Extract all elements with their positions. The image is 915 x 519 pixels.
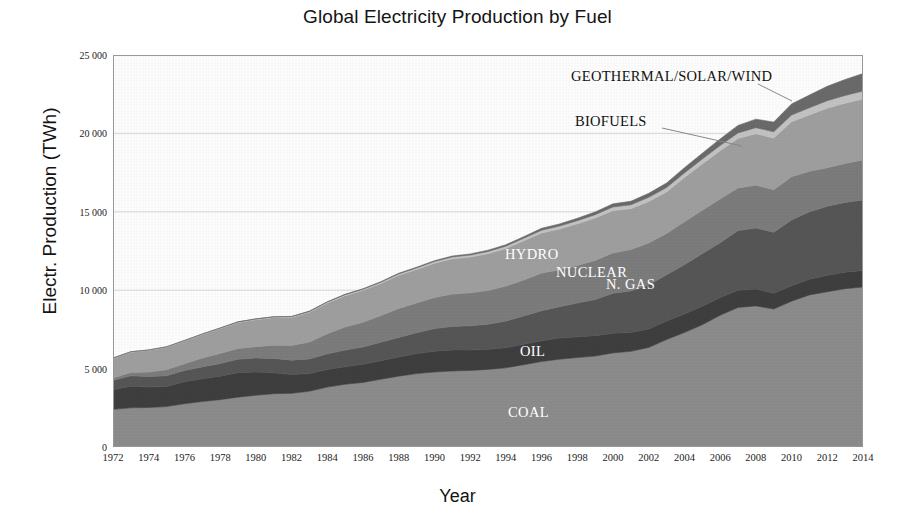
x-tick-label: 1976 — [174, 452, 195, 463]
x-tick-label: 2004 — [674, 452, 695, 463]
y-tick-label: 20 000 — [80, 128, 108, 139]
y-tick-label: 10 000 — [80, 285, 108, 296]
x-tick-label: 1994 — [495, 452, 516, 463]
area-series-group — [113, 74, 863, 448]
y-tick-label: 0 — [102, 442, 107, 453]
y-tick-label: 15 000 — [80, 206, 108, 217]
annotation-leader-line — [758, 84, 792, 101]
y-axis-label: Electr. Production (TWh) — [39, 11, 61, 411]
x-tick-label: 1992 — [460, 452, 481, 463]
x-tick-label: 2010 — [781, 452, 802, 463]
chart-figure: Global Electricity Production by Fuel El… — [0, 0, 915, 519]
x-tick-label: 1980 — [245, 452, 266, 463]
x-tick-label: 2000 — [603, 452, 624, 463]
x-tick-label: 2002 — [638, 452, 659, 463]
y-tick-label: 5 000 — [85, 363, 108, 374]
x-tick-label: 1990 — [424, 452, 445, 463]
stacked-area-svg — [113, 55, 863, 447]
x-tick-label: 1986 — [353, 452, 374, 463]
x-tick-label: 2014 — [853, 452, 874, 463]
x-tick-label: 1978 — [210, 452, 231, 463]
x-tick-label: 2012 — [817, 452, 838, 463]
x-tick-label: 1998 — [567, 452, 588, 463]
x-tick-label: 1982 — [281, 452, 302, 463]
x-tick-label: 1996 — [531, 452, 552, 463]
x-tick-label: 1972 — [103, 452, 124, 463]
x-tick-label: 1988 — [388, 452, 409, 463]
x-tick-label: 1974 — [138, 452, 159, 463]
x-tick-label: 1984 — [317, 452, 338, 463]
chart-title: Global Electricity Production by Fuel — [0, 6, 915, 28]
x-tick-label: 2006 — [710, 452, 731, 463]
x-tick-label: 2008 — [745, 452, 766, 463]
y-tick-label: 25 000 — [80, 50, 108, 61]
plot-area — [113, 55, 863, 447]
x-axis-label: Year — [0, 486, 915, 507]
